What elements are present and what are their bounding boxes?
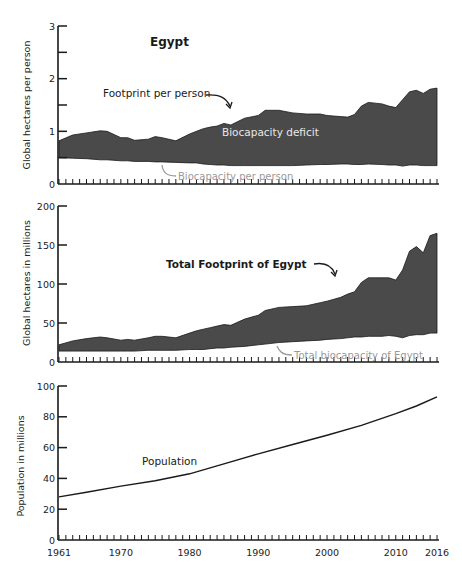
y-tick-label: 20 xyxy=(43,504,55,515)
total-biocapacity-arrow-icon xyxy=(277,346,292,355)
x-tick-label: 1970 xyxy=(109,547,133,558)
x-tick-label: 1980 xyxy=(177,547,201,558)
y-tick-label: 0 xyxy=(49,535,55,546)
deficit-area xyxy=(59,233,437,351)
x-tick-label: 2010 xyxy=(384,547,408,558)
egypt-footprint-figure: 0123 050100150200 0204060801001961197019… xyxy=(0,0,462,572)
panel-footprint-per-person: 0123 xyxy=(49,21,439,190)
panel-population: 0204060801001961197019801990200020102016 xyxy=(37,381,449,559)
population-line xyxy=(59,397,437,497)
population-label: Population xyxy=(142,455,197,467)
x-tick-label: 1961 xyxy=(47,547,71,558)
y-tick-label: 100 xyxy=(37,279,55,290)
x-tick-label: 1990 xyxy=(246,547,270,558)
footprint-per-person-label: Footprint per person xyxy=(103,87,210,99)
y-tick-label: 40 xyxy=(43,473,55,484)
y-tick-label: 150 xyxy=(37,240,55,251)
y-tick-label: 80 xyxy=(43,411,55,422)
chart-canvas: 0123 050100150200 0204060801001961197019… xyxy=(0,0,462,572)
panel-total-footprint: 050100150200 xyxy=(37,201,439,368)
y-tick-label: 2 xyxy=(49,73,55,84)
y-tick-label: 1 xyxy=(49,126,55,137)
biocapacity-arrow-icon xyxy=(162,165,176,176)
total-footprint-label: Total Footprint of Egypt xyxy=(166,258,306,270)
y-tick-label: 100 xyxy=(37,381,55,392)
y-tick-label: 200 xyxy=(37,201,55,212)
total-biocapacity-label: Total biocapacity of Egypt xyxy=(293,350,423,361)
x-tick-label: 2016 xyxy=(425,547,449,558)
biocapacity-per-person-label: Biocapacity per person xyxy=(178,171,293,182)
x-tick-label: 2000 xyxy=(315,547,339,558)
chart-title: Egypt xyxy=(150,35,189,49)
y-axis-label-top: Global hectares per person xyxy=(21,41,32,170)
y-axis-label-mid: Global hectares in millions xyxy=(21,220,32,346)
y-tick-label: 60 xyxy=(43,442,55,453)
y-tick-label: 0 xyxy=(49,179,55,190)
y-axis-label-bottom: Population in millions xyxy=(15,415,26,516)
y-tick-label: 50 xyxy=(43,318,55,329)
y-tick-label: 3 xyxy=(49,21,55,32)
biocapacity-deficit-label: Biocapacity deficit xyxy=(222,126,319,138)
y-tick-label: 0 xyxy=(49,357,55,368)
